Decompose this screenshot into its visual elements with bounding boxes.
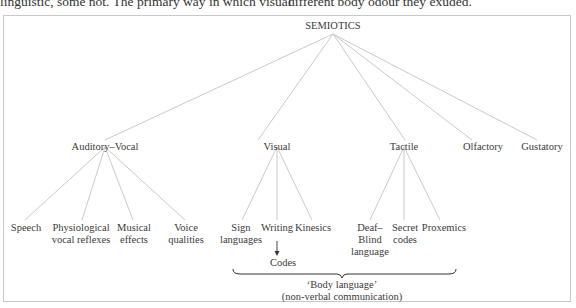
body-language-brace [233, 269, 456, 278]
node-secret-codes: Secret codes [392, 222, 418, 246]
node-deaf-blind-language: Deaf– Blind language [351, 222, 389, 258]
node-olfactory: Olfactory [463, 141, 503, 153]
node-auditory-vocal: Auditory–Vocal [72, 141, 139, 153]
body-language-label: ‘Body language’ (non-verbal communicatio… [282, 279, 402, 303]
node-semiotics: SEMIOTICS [305, 20, 360, 32]
writing-arrow [275, 241, 280, 256]
node-proxemics: Proxemics [422, 222, 466, 234]
node-codes: Codes [270, 257, 296, 269]
node-voice-qualities: Voice qualities [168, 222, 204, 246]
node-visual: Visual [264, 141, 291, 153]
node-speech: Speech [11, 222, 41, 234]
node-kinesics: Kinesics [295, 222, 331, 234]
node-physiological-vocal-reflexes: Physiological vocal reflexes [52, 222, 111, 246]
node-writing: Writing [261, 222, 293, 234]
node-gustatory: Gustatory [521, 141, 562, 153]
node-tactile: Tactile [390, 141, 418, 153]
node-sign-languages: Sign languages [220, 222, 262, 246]
node-musical-effects: Musical effects [117, 222, 151, 246]
